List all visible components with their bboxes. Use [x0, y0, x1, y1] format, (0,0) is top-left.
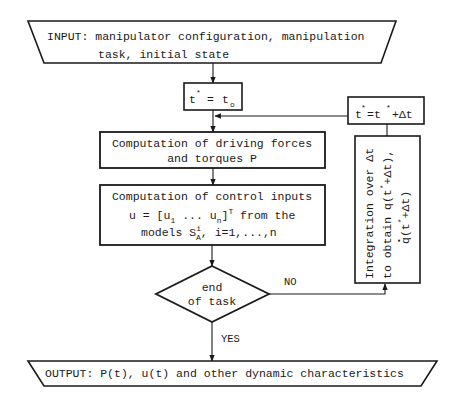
output-node: OUTPUT: P(t), u(t) and other dynamic cha… — [28, 361, 437, 386]
input-line-2: task, initial state — [98, 48, 229, 61]
decision-line-2: of task — [188, 295, 236, 308]
no-label: NO — [284, 276, 297, 288]
init-rhs-sub: o — [230, 100, 235, 109]
decision-line-1: end — [202, 281, 223, 294]
forces-line-1: Computation of driving forces — [112, 137, 312, 150]
decision-node: end of task — [156, 266, 269, 322]
input-line-1: INPUT: manipulator configuration, manipu… — [47, 30, 364, 43]
control-line-1: Computation of control inputs — [112, 190, 312, 203]
init-node: t * = t o — [184, 83, 242, 110]
integration-node: Integration over Δt to obtain q(t*+Δt), … — [355, 136, 420, 283]
init-rhs: t — [222, 93, 229, 106]
control-node: Computation of control inputs u = [u1 ..… — [100, 185, 325, 245]
increment-sup2: * — [386, 103, 391, 112]
init-lhs-sup: * — [196, 88, 201, 97]
flowchart-canvas: INPUT: manipulator configuration, manipu… — [0, 0, 455, 401]
integration-line-1: Integration over Δt — [363, 148, 376, 279]
input-node: INPUT: manipulator configuration, manipu… — [28, 21, 396, 63]
integration-line-3: q(t*+Δt) — [396, 191, 412, 244]
increment-eq: =t — [367, 108, 381, 121]
increment-sup1: * — [361, 103, 366, 112]
init-eq: = — [207, 93, 214, 106]
increment-node: t * =t * +Δt — [348, 97, 424, 124]
init-lhs: t — [189, 93, 196, 106]
output-text: OUTPUT: P(t), u(t) and other dynamic cha… — [45, 367, 404, 380]
forces-node: Computation of driving forces and torque… — [100, 132, 325, 168]
increment-tail: +Δt — [392, 108, 413, 121]
forces-line-2: and torques P — [167, 152, 257, 165]
integration-dot: • — [394, 238, 403, 243]
decision-diamond — [156, 266, 269, 322]
integration-line-2: to obtain q(t*+Δt), — [378, 150, 394, 279]
yes-label: YES — [221, 333, 240, 345]
